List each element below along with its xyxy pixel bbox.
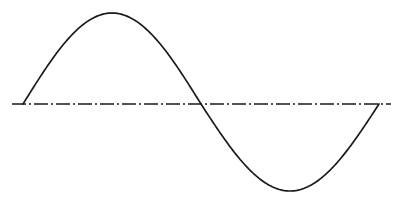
sine-wave-diagram	[0, 0, 399, 202]
sine-curve	[23, 13, 379, 191]
sine-wave-figure: Sine wave	[0, 0, 399, 202]
